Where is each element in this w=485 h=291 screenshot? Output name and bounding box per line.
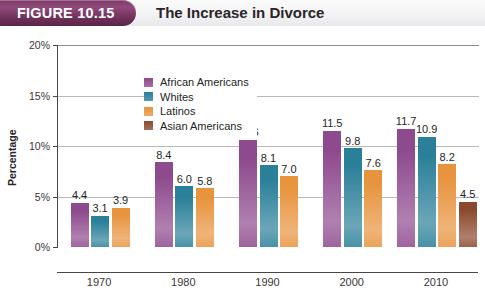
legend-swatch-icon — [144, 107, 153, 116]
bar-value-label: 11.5 — [322, 117, 343, 129]
legend-label: African Americans — [160, 76, 249, 88]
y-axis-tick-label: 5% — [35, 191, 50, 203]
bar[interactable]: 9.8 — [344, 148, 362, 247]
y-axis-tick-label: 20% — [29, 39, 50, 51]
x-axis-tick-label: 2010 — [424, 276, 448, 288]
figure-number-label: FIGURE 10.15 — [17, 0, 115, 26]
bar[interactable]: 10.6 — [239, 140, 257, 247]
legend-swatch-icon — [144, 92, 153, 101]
y-axis-tick — [53, 45, 58, 46]
legend-label: Whites — [160, 91, 194, 103]
bar-value-label: 5.8 — [197, 175, 212, 187]
bar-value-label: 4.5 — [460, 188, 475, 200]
bar-group-2010: 11.710.98.24.5 — [397, 45, 477, 247]
x-axis-tick-label: 1990 — [255, 276, 279, 288]
legend-item: African Americans — [144, 75, 249, 90]
bar[interactable]: 10.9 — [418, 137, 436, 247]
bar[interactable]: 11.5 — [323, 131, 341, 247]
x-axis-tick-label: 1970 — [87, 276, 111, 288]
bar-value-label: 8.2 — [439, 151, 454, 163]
bar-value-label: 9.8 — [345, 135, 360, 147]
bar-value-label: 8.1 — [261, 152, 276, 164]
bar[interactable]: 4.5 — [459, 202, 477, 247]
bar-value-label: 6.0 — [177, 173, 192, 185]
bar[interactable]: 4.4 — [71, 203, 89, 247]
plot-area: 0%5%10%15%20% 4.43.13.98.46.05.810.68.17… — [57, 45, 479, 247]
y-axis-tick — [53, 146, 58, 147]
bar-group-1970: 4.43.13.9 — [71, 45, 130, 247]
bar[interactable]: 3.1 — [91, 216, 109, 247]
bar-value-label: 7.0 — [281, 163, 296, 175]
legend-item: Asian Americans — [144, 119, 249, 134]
bar-group-2000: 11.59.87.6 — [323, 45, 382, 247]
bar[interactable]: 8.1 — [260, 165, 278, 247]
bar[interactable]: 5.8 — [196, 188, 214, 247]
bar[interactable]: 11.7 — [397, 129, 415, 247]
y-axis-tick — [53, 247, 58, 248]
bar[interactable]: 7.6 — [364, 170, 382, 247]
y-axis-tick — [53, 197, 58, 198]
x-axis-line — [57, 272, 478, 273]
legend-swatch-icon — [144, 121, 153, 130]
chart-area: Percentage 0%5%10%15%20% 4.43.13.98.46.0… — [0, 26, 485, 291]
bar-value-label: 11.7 — [396, 115, 417, 127]
x-axis-tick-label: 2000 — [339, 276, 363, 288]
legend-label: Latinos — [160, 105, 195, 117]
bar-value-label: 10.9 — [416, 123, 437, 135]
bar[interactable]: 8.2 — [438, 164, 456, 247]
bar[interactable]: 8.4 — [155, 162, 173, 247]
figure-header: FIGURE 10.15 The Increase in Divorce — [0, 0, 485, 26]
y-axis-tick — [53, 96, 58, 97]
figure-title: The Increase in Divorce — [156, 0, 324, 26]
bar-value-label: 3.1 — [92, 202, 107, 214]
bar[interactable]: 3.9 — [112, 208, 130, 247]
y-axis-tick-label: 0% — [35, 241, 50, 253]
bar[interactable]: 7.0 — [280, 176, 298, 247]
y-axis-title: Percentage — [6, 129, 18, 186]
bar[interactable]: 6.0 — [175, 186, 193, 247]
bar-value-label: 8.4 — [156, 149, 171, 161]
y-axis-tick-label: 10% — [29, 140, 50, 152]
y-axis-tick-label: 15% — [29, 90, 50, 102]
legend-item: Whites — [144, 90, 249, 105]
legend-label: Asian Americans — [160, 120, 242, 132]
legend-item: Latinos — [144, 104, 249, 119]
bar-value-label: 3.9 — [113, 194, 128, 206]
x-axis-tick-label: 1980 — [171, 276, 195, 288]
bar-value-label: 7.6 — [366, 157, 381, 169]
legend-swatch-icon — [144, 78, 153, 87]
bar-value-label: 4.4 — [72, 189, 87, 201]
chart-legend: African AmericansWhitesLatinosAsian Amer… — [144, 73, 257, 136]
